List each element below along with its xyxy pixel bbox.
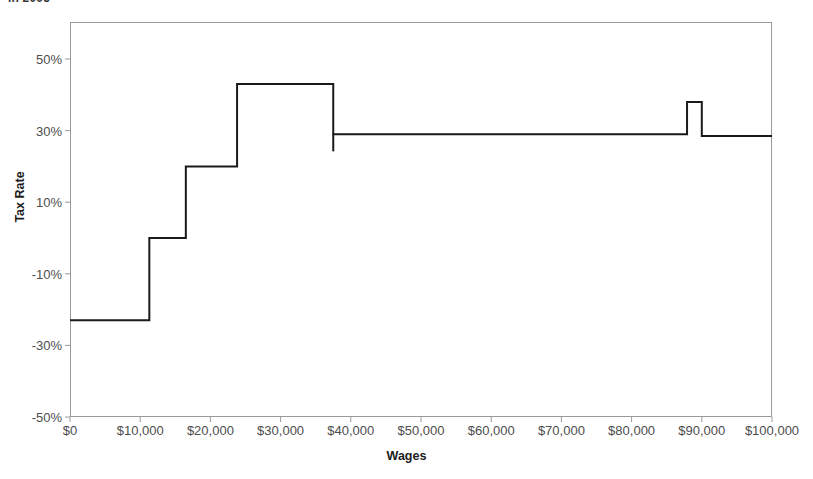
x-tick-label: $20,000 <box>187 423 234 438</box>
plot-area-frame <box>70 22 772 417</box>
x-tick-label: $70,000 <box>538 423 585 438</box>
x-tick-label: $40,000 <box>327 423 374 438</box>
y-axis-title: Tax Rate <box>13 147 27 247</box>
x-tick-label: $50,000 <box>398 423 445 438</box>
x-tick-label: $30,000 <box>257 423 304 438</box>
y-axis-tick-labels: 50%30%10%-10%-30%-50% <box>0 0 62 479</box>
y-tick-label: -30% <box>6 338 62 353</box>
x-axis-title: Wages <box>0 449 813 463</box>
y-tick-label: 30% <box>6 123 62 138</box>
y-tick-label: -50% <box>6 410 62 425</box>
x-tick-label: $60,000 <box>468 423 515 438</box>
y-tick-label: -10% <box>6 266 62 281</box>
x-tick-label: $90,000 <box>678 423 725 438</box>
x-tick-label: $80,000 <box>608 423 655 438</box>
y-tick-label: 50% <box>6 52 62 67</box>
x-tick-label: $10,000 <box>117 423 164 438</box>
x-tick-label: $0 <box>63 423 77 438</box>
tax-rate-chart: in 2005 50%30%10%-10%-30%-50% $0$10,000$… <box>0 0 813 479</box>
x-tick-label: $100,000 <box>745 423 799 438</box>
